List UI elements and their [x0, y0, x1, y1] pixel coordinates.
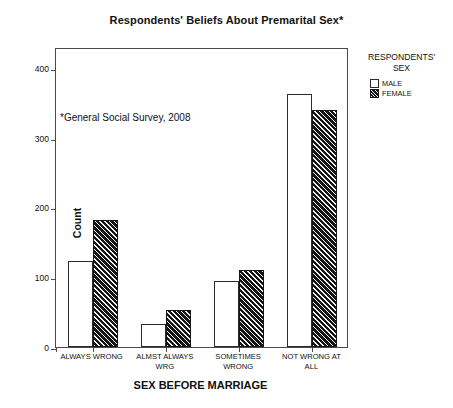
bar-female [312, 110, 337, 347]
y-tick-mark [51, 349, 56, 350]
legend-swatch-male [370, 79, 379, 88]
legend-item: FEMALE [370, 89, 453, 98]
bar-male [68, 261, 93, 347]
x-axis-title: SEX BEFORE MARRIAGE [0, 379, 401, 391]
legend-label: FEMALE [382, 89, 412, 98]
x-axis-category-label: ALMST ALWAYS WRG [128, 352, 201, 371]
y-tick-mark [51, 70, 56, 71]
legend-swatch-female [370, 89, 379, 98]
y-tick-mark [51, 279, 56, 280]
legend-item: MALE [370, 79, 453, 88]
y-tick-label: 100 [35, 273, 49, 283]
bar-female [239, 270, 264, 347]
y-tick-mark [51, 209, 56, 210]
plot-frame: Count 0100200300400 [55, 48, 348, 348]
x-axis-category-label: NOT WRONG AT ALL [275, 352, 348, 371]
legend-title: RESPONDENTS' SEX [350, 48, 453, 74]
x-axis-category-label: ALWAYS WRONG [55, 352, 128, 362]
y-tick-label: 400 [35, 64, 49, 74]
x-axis-category-label: SOMETIMES WRONG [202, 352, 275, 371]
bar-female [166, 310, 191, 347]
chart-title: Respondents' Beliefs About Premarital Se… [0, 14, 453, 26]
y-tick-label: 200 [35, 203, 49, 213]
y-tick-label: 0 [44, 343, 49, 353]
bar-female [93, 220, 118, 347]
bar-male [214, 281, 239, 347]
y-tick-mark [51, 140, 56, 141]
legend: RESPONDENTS' SEX MALEFEMALE [350, 48, 453, 99]
legend-items: MALEFEMALE [350, 79, 453, 98]
chart-annotation: *General Social Survey, 2008 [60, 112, 190, 123]
y-tick-label: 300 [35, 134, 49, 144]
bar-male [287, 94, 312, 347]
plot-area [56, 49, 347, 347]
bar-chart: Respondents' Beliefs About Premarital Se… [0, 0, 453, 408]
bar-male [141, 324, 166, 347]
legend-label: MALE [382, 79, 402, 88]
